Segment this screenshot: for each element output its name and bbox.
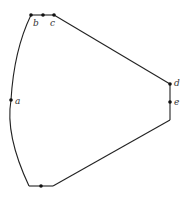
vertex-top-left	[29, 13, 33, 17]
label-c: c	[50, 18, 55, 28]
lower-right-edge	[53, 120, 170, 186]
label-d: d	[174, 78, 180, 88]
left-curved-edge	[10, 15, 31, 186]
upper-right-edge	[54, 15, 170, 84]
label-e: e	[174, 97, 179, 107]
vertex-d	[168, 82, 172, 86]
label-b: b	[33, 18, 39, 28]
vertex-a	[9, 98, 13, 102]
vertex-bottom	[39, 184, 43, 188]
vertex-e	[168, 100, 172, 104]
label-a: a	[15, 96, 20, 106]
vertex-c	[52, 13, 56, 17]
vertex-b	[41, 13, 45, 17]
diagram-canvas: a b c d e	[0, 0, 184, 200]
